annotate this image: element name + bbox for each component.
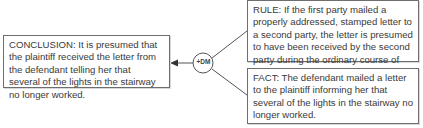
arrowhead-left-icon bbox=[170, 60, 178, 67]
fact-box: FACT: The defendant mailed a letter to t… bbox=[247, 68, 419, 124]
decision-node-label: +DM bbox=[193, 58, 214, 65]
fact-connector-line bbox=[212, 69, 247, 95]
conclusion-box: CONCLUSION: It is presumed that the plai… bbox=[3, 35, 170, 88]
fact-text: FACT: The defendant mailed a letter to t… bbox=[253, 72, 413, 120]
rule-connector-line bbox=[212, 31, 247, 58]
rule-box: RULE: If the first party mailed a proper… bbox=[247, 0, 419, 62]
